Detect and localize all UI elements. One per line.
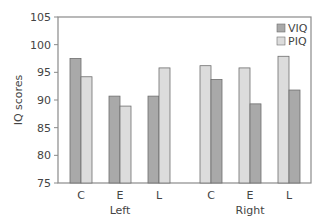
x-tick-label: L (156, 189, 163, 202)
bar-right-e-viq (250, 104, 261, 183)
bar-right-c-viq (211, 80, 222, 183)
x-tick-label: C (207, 189, 215, 202)
legend-swatch-viq (277, 24, 285, 32)
legend-swatch-piq (277, 37, 285, 45)
y-tick-label: 85 (37, 122, 51, 135)
bar-right-e-piq (239, 68, 250, 183)
x-axis-labels: CELLeftCELRight (77, 189, 293, 217)
bar-right-l-viq (289, 90, 300, 183)
y-axis-title: IQ scores (12, 74, 25, 125)
group-label-right: Right (236, 204, 266, 217)
y-tick-label: 80 (37, 149, 51, 162)
x-tick-label: E (117, 189, 124, 202)
y-tick-label: 75 (37, 177, 51, 190)
y-tick-label: 95 (37, 66, 51, 79)
bar-right-c-piq (200, 66, 211, 183)
x-tick-label: L (286, 189, 293, 202)
iq-bar-chart: 7580859095100105 CELLeftCELRight VIQPIQ … (0, 0, 329, 221)
plot-frame (58, 17, 311, 183)
group-label-left: Left (110, 204, 131, 217)
y-tick-label: 90 (37, 94, 51, 107)
bar-left-e-viq (109, 96, 120, 183)
x-tick-label: C (77, 189, 85, 202)
legend-label-piq: PIQ (288, 35, 307, 48)
bar-left-c-piq (81, 77, 92, 183)
bar-left-l-viq (148, 96, 159, 183)
x-tick-label: E (247, 189, 254, 202)
y-tick-label: 100 (30, 39, 51, 52)
y-tick-label: 105 (30, 11, 51, 24)
bar-left-e-piq (120, 106, 131, 183)
bar-left-l-piq (159, 68, 170, 183)
legend: VIQPIQ (277, 22, 308, 48)
bar-left-c-viq (70, 59, 81, 184)
legend-label-viq: VIQ (288, 22, 308, 35)
bar-right-l-piq (278, 56, 289, 183)
bars (70, 56, 300, 183)
